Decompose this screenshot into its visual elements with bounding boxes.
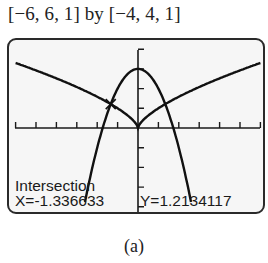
readout-title: Intersection <box>15 178 95 193</box>
readout-x-value: X=-1.336633 <box>15 193 104 208</box>
calculator-screen: Intersection X=-1.336633 Y=1.2134117 <box>7 38 265 214</box>
intersection-cursor-icon <box>106 99 116 109</box>
window-settings-label: [−6, 6, 1] by [−4, 4, 1] <box>8 3 181 25</box>
figure-caption: (a) <box>0 236 268 257</box>
readout-y-value: Y=1.2134117 <box>140 193 232 208</box>
